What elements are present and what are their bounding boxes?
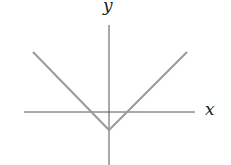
x-axis-label: x — [205, 101, 215, 118]
y-axis-label: y — [103, 0, 113, 14]
function-plot — [0, 0, 231, 165]
absolute-value-curve — [33, 52, 187, 130]
